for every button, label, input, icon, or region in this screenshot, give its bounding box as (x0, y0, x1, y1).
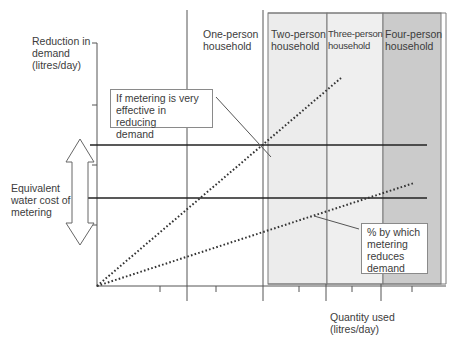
cost-marker-label: Equivalent water cost of metering (11, 182, 71, 218)
effective-metering-callout: If metering is very effective in reducin… (110, 89, 213, 128)
x-axis-label: Quantity used (litres/day) (330, 311, 395, 335)
percent-reduction-callout: % by which metering reduces demand (361, 223, 428, 274)
three-person-label: Three-person household (328, 28, 383, 52)
y-axis-label: Reduction in demand (litres/day) (32, 35, 90, 71)
band-two-person (268, 13, 327, 284)
four-person-label: Four-person household (385, 28, 442, 52)
two-person-label: Two-person household (271, 28, 326, 52)
one-person-label: One-person household (203, 28, 258, 52)
